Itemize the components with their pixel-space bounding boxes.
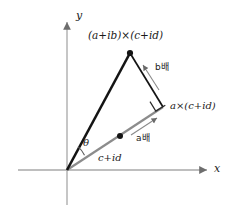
y-axis-label: y xyxy=(76,10,82,21)
b-scale-label: b배 xyxy=(155,63,169,72)
theta-label: θ xyxy=(83,138,89,148)
base-vector-label: c+id xyxy=(98,153,122,163)
right-angle-marker xyxy=(150,102,165,112)
product-label: (a+ib)×(c+id) xyxy=(88,30,163,41)
apex-point-marker xyxy=(127,50,133,56)
complex-multiplication-diagram: y x (a+ib)×(c+id) a×(c+id) c+id a배 b배 θ xyxy=(0,0,230,211)
base-vector-point-marker xyxy=(117,133,123,139)
a-times-vector-label: a×(c+id) xyxy=(170,101,216,111)
a-scale-label: a배 xyxy=(136,134,150,143)
x-axis-label: x xyxy=(214,163,220,174)
